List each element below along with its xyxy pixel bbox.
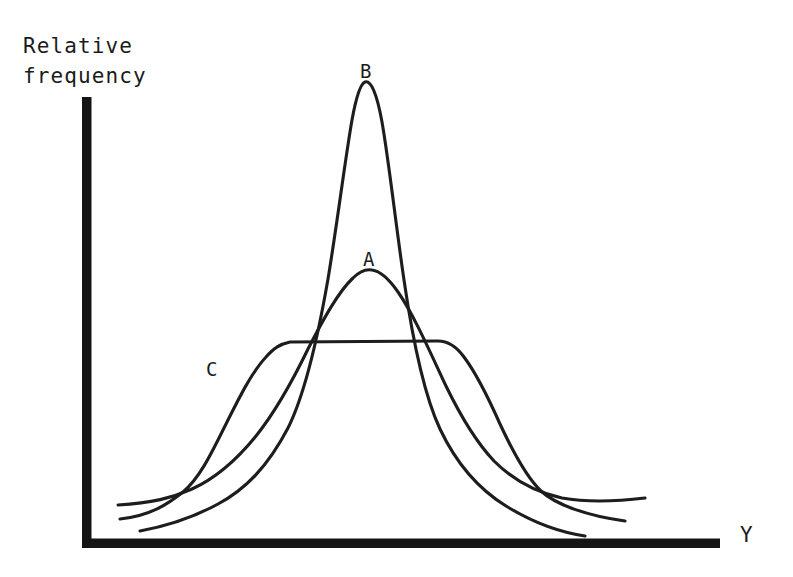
x-axis-label: Y: [740, 523, 754, 547]
curve-label-c: C: [206, 358, 217, 380]
figure-canvas: Relative frequency Y B A C: [0, 0, 793, 577]
relative-frequency-figure: Relative frequency Y B A C: [0, 0, 793, 577]
curve-a-path: [118, 270, 645, 505]
y-axis-label-line1: Relative: [23, 34, 133, 58]
y-axis-label-line2: frequency: [23, 64, 147, 88]
curve-label-b: B: [360, 60, 371, 82]
curve-label-a: A: [363, 248, 375, 270]
x-axis-line: [82, 539, 720, 549]
curve-b-path: [140, 82, 585, 536]
y-axis-line: [82, 97, 92, 548]
